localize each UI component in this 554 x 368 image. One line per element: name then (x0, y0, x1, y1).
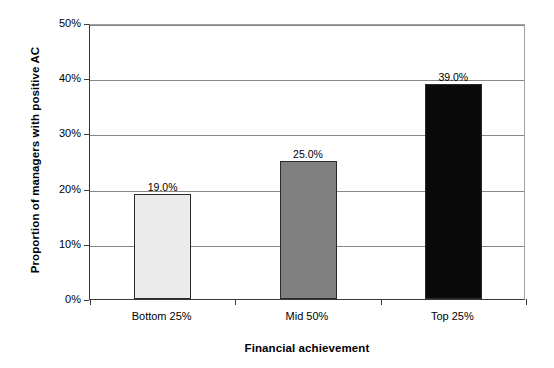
plot-area: 19.0%25.0%39.0% (89, 24, 525, 300)
x-axis-title: Financial achievement (89, 342, 525, 354)
bar-value-label: 19.0% (123, 182, 203, 193)
bar-value-label: 39.0% (413, 72, 493, 83)
y-tick-mark (84, 300, 89, 301)
bar (134, 194, 191, 299)
bar-chart: Proportion of managers with positive AC … (0, 0, 554, 368)
y-tick-label: 50% (31, 18, 81, 29)
x-tick-label: Top 25% (382, 310, 522, 323)
y-tick-label: 40% (31, 73, 81, 84)
gridline (90, 25, 524, 26)
x-tick-mark (90, 299, 91, 305)
bar (280, 161, 337, 299)
x-tick-label: Mid 50% (237, 310, 377, 323)
x-tick-label: Bottom 25% (92, 310, 232, 323)
y-tick-label: 0% (31, 294, 81, 305)
x-tick-mark (381, 299, 382, 305)
bar (425, 84, 482, 299)
x-tick-mark (526, 299, 527, 305)
y-axis-title: Proportion of managers with positive AC (22, 10, 48, 310)
x-tick-mark (235, 299, 236, 305)
y-tick-label: 20% (31, 184, 81, 195)
bar-value-label: 25.0% (268, 149, 348, 160)
y-tick-label: 10% (31, 239, 81, 250)
y-tick-label: 30% (31, 128, 81, 139)
